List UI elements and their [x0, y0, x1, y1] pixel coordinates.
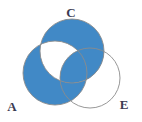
- set-label-e: E: [120, 97, 129, 112]
- venn-diagram-svg: A C E: [0, 0, 142, 122]
- set-label-c: C: [66, 5, 75, 20]
- set-label-a: A: [7, 99, 17, 114]
- venn-diagram-figure: A C E: [0, 0, 142, 122]
